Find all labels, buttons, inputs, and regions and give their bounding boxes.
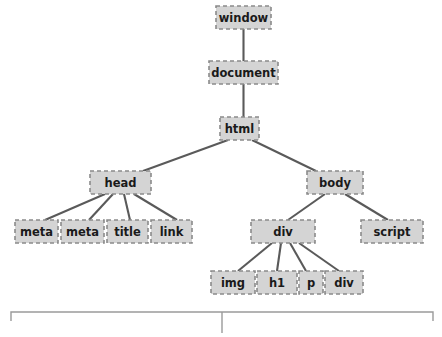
edge-html-to-body [252,140,316,171]
tree-node-window[interactable]: window [216,6,271,29]
tree-node-p[interactable]: p [299,271,323,294]
tree-node-head[interactable]: head [90,171,151,194]
node-label-meta1: meta [20,225,53,239]
tree-node-div1[interactable]: div [251,220,315,243]
node-label-p: p [307,276,315,290]
dom-tree-diagram: windowdocumenthtmlheadbodymetametatitlel… [0,0,442,337]
node-label-link: link [160,225,184,239]
edge-div1-to-div2 [299,243,339,271]
range-bracket [11,312,433,333]
node-label-h1: h1 [269,276,285,290]
tree-node-title[interactable]: title [107,220,148,243]
node-label-body: body [319,176,351,190]
nodes-layer: windowdocumenthtmlheadbodymetametatitlel… [15,6,423,294]
node-label-document: document [211,66,276,80]
node-label-script: script [373,225,411,239]
edge-div1-to-h1 [277,243,281,271]
tree-node-meta2[interactable]: meta [61,220,104,243]
node-label-img: img [221,276,245,290]
edge-head-to-meta1 [45,194,105,220]
tree-node-link[interactable]: link [151,220,192,243]
tree-node-body[interactable]: body [307,171,363,194]
node-label-meta2: meta [66,225,99,239]
tree-node-meta1[interactable]: meta [15,220,58,243]
node-label-div1: div [273,225,293,239]
node-label-title: title [114,225,141,239]
node-label-window: window [219,11,269,25]
edge-body-to-script [345,194,388,220]
node-label-div2: div [334,276,354,290]
tree-node-h1[interactable]: h1 [257,271,297,294]
edge-head-to-title [124,194,130,220]
edge-html-to-head [143,140,228,171]
node-label-html: html [225,122,255,136]
edge-div1-to-img [238,243,272,271]
edge-head-to-meta2 [89,194,113,220]
tree-node-document[interactable]: document [209,61,278,84]
edge-head-to-link [134,194,177,220]
edge-body-to-div1 [288,194,325,220]
tree-node-script[interactable]: script [361,220,423,243]
node-label-head: head [105,176,137,190]
tree-node-img[interactable]: img [211,271,255,294]
tree-node-html[interactable]: html [220,117,259,140]
tree-node-div2[interactable]: div [325,271,363,294]
